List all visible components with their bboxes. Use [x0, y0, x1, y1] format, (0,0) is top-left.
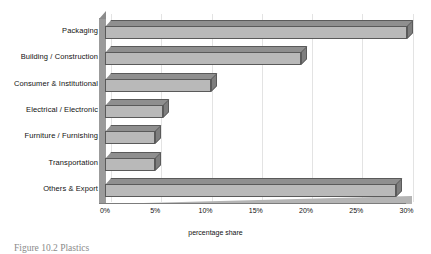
bar-front-face — [105, 26, 407, 39]
gridline-20 — [312, 14, 313, 202]
category-label: Packaging — [62, 26, 98, 35]
x-tick-label: 0% — [90, 207, 120, 214]
category-label: Electrical / Electronic — [26, 105, 98, 114]
x-tick-label: 30% — [392, 207, 422, 214]
gridline-25 — [362, 14, 363, 202]
category-label: Transportation — [49, 158, 98, 167]
axis-wall-top — [99, 11, 106, 19]
gridline-30 — [413, 14, 414, 202]
bar-front-face — [105, 105, 163, 118]
axis-baseline — [99, 203, 406, 204]
bar-front-face — [105, 79, 211, 92]
bar — [105, 125, 155, 138]
x-tick-label: 5% — [140, 207, 170, 214]
bar — [105, 73, 211, 86]
chart-plot-area: PackagingBuilding / ConstructionConsumer… — [0, 0, 431, 254]
x-tick-label: 25% — [341, 207, 371, 214]
x-tick-label: 15% — [241, 207, 271, 214]
bar-front-face — [105, 52, 301, 65]
category-label: Building / Construction — [21, 52, 98, 61]
bar — [105, 46, 301, 59]
x-tick-label: 20% — [291, 207, 321, 214]
bar — [105, 152, 155, 165]
bar — [105, 99, 163, 112]
bar-front-face — [105, 158, 155, 171]
bar-front-face — [105, 131, 155, 144]
category-label: Furniture / Furnishing — [25, 131, 98, 140]
bar — [105, 178, 396, 191]
x-axis-title: percentage share — [0, 229, 431, 236]
category-label: Others & Export — [43, 184, 98, 193]
figure-caption: Figure 10.2 Plastics — [14, 243, 89, 253]
category-label: Consumer & Institutional — [14, 79, 98, 88]
gridline-15 — [262, 14, 263, 202]
bar — [105, 20, 407, 33]
gridline-10 — [212, 14, 213, 202]
x-tick-label: 10% — [191, 207, 221, 214]
figure-container: PackagingBuilding / ConstructionConsumer… — [0, 0, 431, 254]
bar-front-face — [105, 184, 396, 197]
